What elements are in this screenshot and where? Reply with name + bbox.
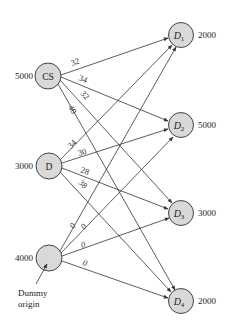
edge-dummy-d4: [62, 261, 168, 298]
cost-dummy-d4: 0: [81, 257, 89, 268]
cost-dummy-d3: 0: [79, 239, 87, 250]
supply-d: 3000: [15, 161, 34, 171]
cost-d-d2: 30: [77, 146, 88, 158]
edge-d-d3: [62, 168, 168, 209]
demand-d1: 2000: [198, 30, 217, 40]
transportation-network-diagram: 32 34 32 40 34 30 28 38 0 0 0 0 CS 5000 …: [0, 0, 228, 335]
supply-cs: 5000: [15, 71, 34, 81]
destination-node-d1: D1 2000: [169, 23, 217, 48]
node-label-d: D: [46, 162, 53, 172]
destination-node-d2: D2 5000: [169, 113, 217, 138]
source-node-dummy: 4000: [15, 245, 62, 271]
demand-d3: 3000: [198, 208, 217, 218]
demand-d4: 2000: [198, 296, 217, 306]
node-label-cs: CS: [42, 72, 54, 82]
annotation-line1: Dummy: [18, 288, 48, 298]
cost-d-d4: 38: [77, 178, 90, 191]
node-circle-dummy: [36, 245, 62, 271]
cost-cs-d1: 32: [69, 56, 80, 68]
dummy-origin-annotation: Dummy origin: [18, 264, 48, 309]
destination-node-d3: D3 3000: [169, 201, 217, 226]
cost-cs-d2: 34: [77, 73, 89, 86]
source-node-d: D 3000: [15, 153, 62, 179]
supply-dummy: 4000: [15, 253, 34, 263]
cost-cs-d3: 32: [79, 88, 92, 101]
edges-from-cs: [58, 38, 175, 290]
edge-d-d2: [62, 129, 168, 163]
demand-d2: 5000: [198, 120, 217, 130]
source-node-cs: CS 5000: [15, 63, 61, 89]
edge-d-d4: [60, 172, 171, 292]
destination-node-d4: D4 2000: [169, 289, 217, 314]
annotation-line2: origin: [18, 299, 40, 309]
cost-cs-d4: 40: [66, 103, 79, 115]
